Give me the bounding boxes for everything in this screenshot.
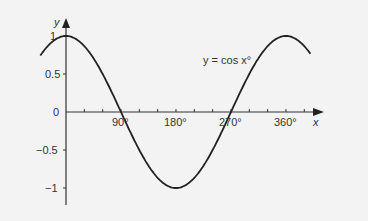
y-tick-label-neg1: −1	[45, 182, 58, 194]
cosine-chart: y x y = cos x° 1 0.5 0 −0.5 −1 90° 180° …	[0, 0, 368, 221]
x-axis-arrow-icon	[313, 108, 324, 116]
curve-label: y = cos x°	[203, 54, 251, 66]
x-tick-label-90: 90°	[112, 116, 129, 128]
x-axis-label: x	[312, 116, 319, 128]
chart-container: y x y = cos x° 1 0.5 0 −0.5 −1 90° 180° …	[0, 0, 368, 221]
y-tick-label-0: 0	[53, 106, 59, 118]
y-tick-label-neg0.5: −0.5	[36, 144, 58, 156]
x-tick-label-180: 180°	[164, 116, 187, 128]
y-axis-arrow-icon	[62, 18, 70, 28]
y-axis-label: y	[53, 16, 61, 28]
y-tick-label-1: 1	[50, 30, 56, 42]
x-tick-label-360: 360°	[274, 116, 297, 128]
x-tick-label-270: 270°	[219, 116, 242, 128]
y-tick-label-0.5: 0.5	[45, 68, 60, 80]
